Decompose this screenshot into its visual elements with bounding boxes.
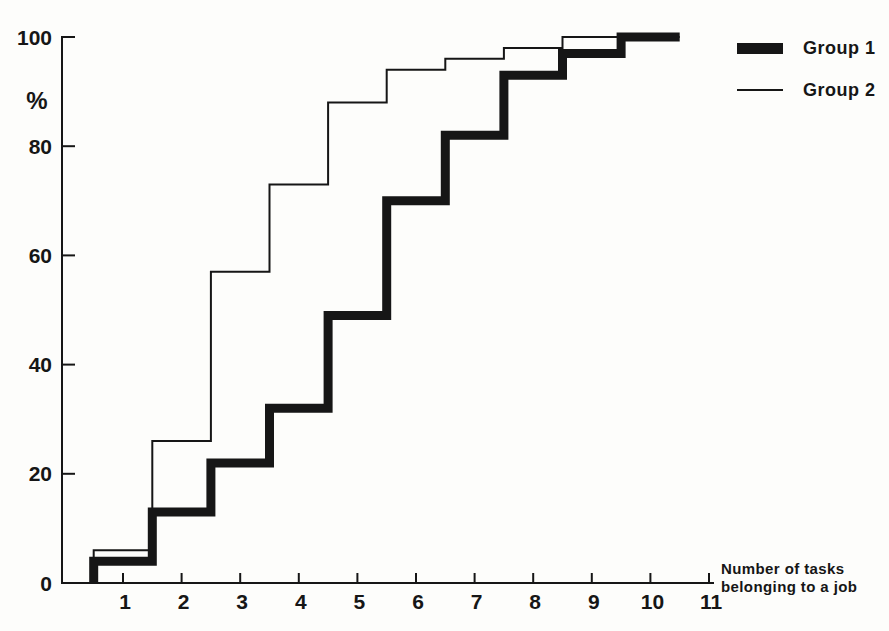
- x-tick-label: 11: [700, 590, 723, 613]
- x-tick-label: 3: [236, 590, 248, 613]
- y-tick-label: 0: [40, 572, 52, 595]
- x-tick-label: 9: [588, 590, 600, 613]
- x-tick-label: 8: [529, 590, 541, 613]
- x-tick-label: 6: [412, 590, 424, 613]
- cumulative-step-chart: 1008060402001234567891011 % Number of ta…: [0, 0, 889, 631]
- x-tick-label: 1: [119, 590, 131, 613]
- y-tick-label: 40: [29, 353, 52, 376]
- legend-label-group-1: Group 1: [803, 38, 876, 59]
- x-tick-label: 10: [641, 590, 664, 613]
- group-1-curve: [94, 37, 680, 583]
- group-1-thick-line-swatch: [737, 43, 783, 54]
- x-tick-label: 7: [471, 590, 483, 613]
- x-tick-label: 2: [178, 590, 190, 613]
- x-axis-title-line-2: belonging to a job: [721, 578, 889, 596]
- y-tick-label: 60: [29, 244, 52, 267]
- legend-item-group-1: Group 1: [737, 39, 876, 57]
- x-tick-label: 5: [354, 590, 366, 613]
- x-tick-label: 4: [295, 590, 307, 613]
- legend-item-group-2: Group 2: [737, 81, 876, 99]
- x-axis-title: Number of tasks belonging to a job: [721, 560, 889, 596]
- group-2-thin-line-swatch: [737, 89, 783, 91]
- x-axis-title-line-1: Number of tasks: [721, 560, 889, 578]
- y-tick-label: 80: [29, 135, 52, 158]
- legend-label-group-2: Group 2: [803, 80, 876, 101]
- y-tick-label: 100: [17, 26, 52, 49]
- y-axis-unit-label: %: [22, 87, 52, 115]
- y-tick-label: 20: [29, 462, 52, 485]
